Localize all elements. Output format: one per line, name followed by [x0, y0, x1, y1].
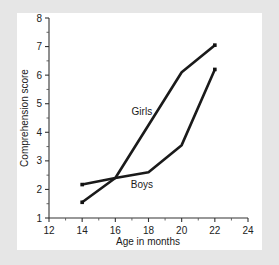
x-tick-label: 24: [242, 225, 254, 236]
x-tick-label: 12: [43, 225, 55, 236]
x-axis-ticks: [49, 218, 248, 222]
y-tick-label: 8: [36, 13, 42, 24]
series-marker-boys: [80, 183, 84, 187]
y-axis-title: Comprehension score: [19, 69, 30, 167]
x-tick-label: 14: [77, 225, 89, 236]
y-tick-label: 6: [36, 70, 42, 81]
y-tick-label: 2: [36, 184, 42, 195]
line-chart: 12345678 12141618202224 GirlsBoys Age in…: [17, 13, 262, 250]
y-axis-tick-labels: 12345678: [36, 13, 42, 224]
y-tick-label: 4: [36, 127, 42, 138]
x-tick-label: 18: [143, 225, 155, 236]
series-label-boys: Boys: [131, 179, 153, 190]
x-tick-label: 20: [176, 225, 188, 236]
series-marker-boys: [213, 68, 217, 72]
y-tick-label: 7: [36, 41, 42, 52]
series-marker-girls: [80, 200, 84, 204]
y-tick-label: 1: [36, 213, 42, 224]
series-label-girls: Girls: [132, 106, 153, 117]
y-tick-label: 5: [36, 98, 42, 109]
x-axis-tick-labels: 12141618202224: [43, 225, 254, 236]
y-tick-label: 3: [36, 155, 42, 166]
chart-figure: 12345678 12141618202224 GirlsBoys Age in…: [17, 13, 262, 250]
x-axis-title: Age in months: [116, 236, 180, 247]
x-tick-label: 22: [209, 225, 221, 236]
series-marker-girls: [213, 43, 217, 47]
x-tick-label: 16: [110, 225, 122, 236]
